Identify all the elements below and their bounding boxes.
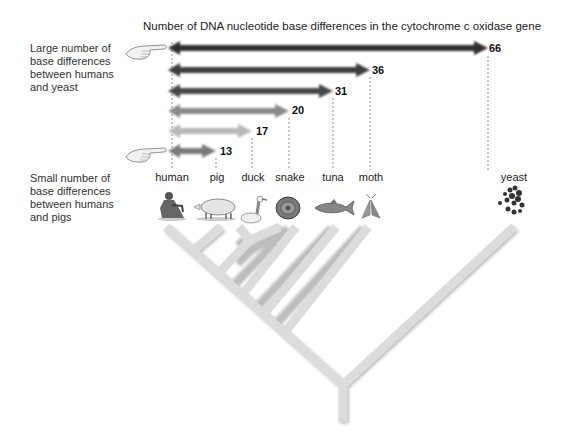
species-label-human: human <box>155 171 189 183</box>
human-illustration-icon <box>158 192 186 221</box>
duck-illustration-icon <box>241 196 267 223</box>
value-label-snake: 20 <box>292 104 304 116</box>
species-label-duck: duck <box>241 171 264 183</box>
value-label-yeast: 66 <box>489 42 501 54</box>
species-label-yeast: yeast <box>501 171 527 183</box>
pointing-hand-icon <box>126 45 166 59</box>
species-label-moth: moth <box>359 171 383 183</box>
diagram-canvas <box>0 0 567 442</box>
moth-illustration-icon <box>362 194 380 218</box>
arrow-human-duck <box>168 124 252 138</box>
value-label-duck: 17 <box>256 125 268 137</box>
value-label-pig: 13 <box>220 145 232 157</box>
phylogenetic-tree <box>166 227 516 424</box>
species-label-pig: pig <box>210 171 225 183</box>
arrow-human-yeast <box>168 41 488 55</box>
species-label-snake: snake <box>275 171 304 183</box>
snake-illustration-icon <box>276 197 300 219</box>
value-label-moth: 36 <box>372 64 384 76</box>
pig-illustration-icon <box>194 199 236 221</box>
species-label-tuna: tuna <box>322 171 343 183</box>
arrow-human-moth <box>168 63 370 77</box>
arrow-human-pig <box>168 144 216 158</box>
tuna-illustration-icon <box>315 199 354 215</box>
pointing-hand-icon <box>126 148 166 162</box>
arrow-human-snake <box>168 104 289 118</box>
arrow-human-tuna <box>168 84 333 98</box>
value-label-tuna: 31 <box>335 85 347 97</box>
yeast-illustration-icon <box>498 186 525 215</box>
